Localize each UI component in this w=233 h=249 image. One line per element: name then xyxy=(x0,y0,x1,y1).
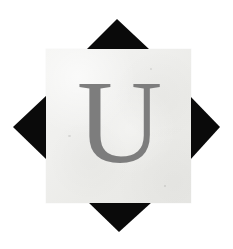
bottom-triangle xyxy=(88,202,152,232)
top-triangle xyxy=(86,19,150,50)
image-canvas: U xyxy=(0,0,233,249)
paper-texture xyxy=(46,49,191,203)
right-triangle xyxy=(190,96,220,160)
paper-speck xyxy=(68,135,71,137)
paper-speck xyxy=(150,68,152,70)
letter-tile xyxy=(46,49,191,203)
paper-speck xyxy=(164,185,166,187)
left-triangle xyxy=(13,95,47,160)
